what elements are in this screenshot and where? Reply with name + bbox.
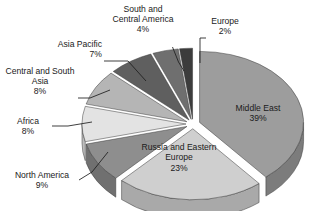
label-africa: Africa 8% [6, 116, 50, 136]
label-russia-and-eastern-europe: Russia and Eastern Europe 23% [123, 142, 235, 173]
label-central-and-south-asia: Central and South Asia 8% [2, 66, 78, 97]
label-asia-pacific: Asia Pacific 7% [24, 39, 102, 59]
label-north-america: North America 9% [4, 170, 80, 190]
label-middle-east: Middle East 39% [218, 103, 298, 124]
label-south-and-central-america: South and Central America 4% [98, 4, 188, 35]
pie-chart-figure: South and Central America 4% Europe 2% A… [0, 0, 330, 211]
label-europe: Europe 2% [202, 16, 248, 36]
